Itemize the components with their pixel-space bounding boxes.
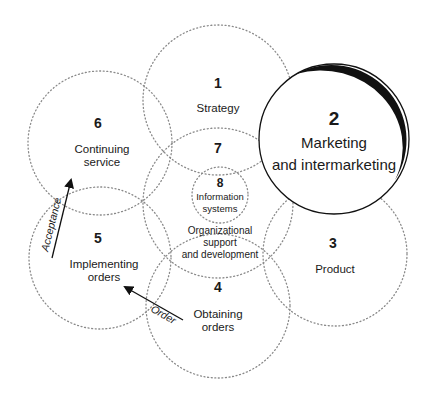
acceptance-arrow: Acceptance <box>38 180 71 258</box>
circle-4-title-line1: Obtaining <box>193 308 242 320</box>
circle-3-title: Product <box>315 263 355 275</box>
circle-6-number: 6 <box>94 115 102 131</box>
circle-6-title-line1: Continuing <box>75 143 130 155</box>
circle-1-number: 1 <box>214 75 222 91</box>
circle-7-number: 7 <box>214 140 222 156</box>
label-circle-3: 3 Product <box>315 235 355 275</box>
circle-7-title-line3: and development <box>182 249 259 260</box>
circle-2-title-line2: and intermarketing <box>272 156 396 173</box>
diagram-canvas: 1 Strategy 2 Marketing and intermarketin… <box>0 0 430 395</box>
label-circle-6: 6 Continuing service <box>75 115 130 168</box>
circle-6-title-line2: service <box>84 156 120 168</box>
circle-8-number: 8 <box>217 176 224 190</box>
circle-4-number: 4 <box>214 279 222 295</box>
circle-2-number: 2 <box>329 108 340 129</box>
order-label: Order <box>149 302 179 326</box>
label-circle-1: 1 Strategy <box>197 75 240 114</box>
circle-3-number: 3 <box>329 235 337 251</box>
circle-5-number: 5 <box>94 230 102 246</box>
circle-5-title-line2: orders <box>88 271 121 283</box>
label-circle-5: 5 Implementing orders <box>69 230 138 283</box>
circle-2-title-line1: Marketing <box>301 134 367 151</box>
circle-5-title-line1: Implementing <box>69 258 138 270</box>
circle-7-title-line2: support <box>203 237 237 248</box>
label-circle-4: 4 Obtaining orders <box>193 279 242 333</box>
circle-7-title-line1: Organizational <box>188 225 252 236</box>
circle-1-title: Strategy <box>197 102 240 114</box>
circle-8-title-line1: Information <box>196 191 244 202</box>
label-circle-8: 8 Information systems <box>196 176 244 214</box>
circle-4-title-line2: orders <box>202 321 235 333</box>
circle-8-title-line2: systems <box>203 203 238 214</box>
diagram-svg: 1 Strategy 2 Marketing and intermarketin… <box>0 0 430 395</box>
